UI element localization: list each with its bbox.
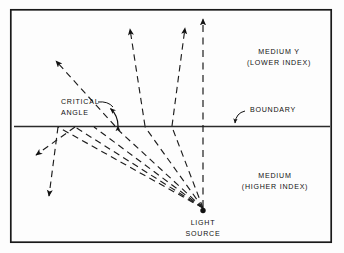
boundary-label: BOUNDARY — [250, 106, 296, 114]
light-source-label-line1: LIGHT — [191, 219, 216, 227]
critical-angle-leader — [98, 102, 113, 107]
reflected-ray-2 — [49, 127, 58, 196]
reflected-ray-1 — [36, 127, 75, 155]
medium-lower-label-line1: MEDIUM — [258, 172, 291, 180]
light-source-dot — [200, 208, 205, 213]
light-source-label-line2: SOURCE — [186, 230, 221, 238]
incident-ray-1 — [172, 127, 203, 208]
medium-upper-label-line2: (LOWER INDEX) — [247, 59, 311, 67]
incident-ray-4-critical — [94, 127, 203, 208]
medium-upper-label-line1: MEDIUM Y — [258, 48, 299, 56]
incident-ray-5 — [75, 127, 203, 208]
incident-ray-3 — [115, 127, 203, 208]
incident-ray-group — [58, 127, 203, 208]
boundary-leader — [235, 111, 245, 123]
critical-angle-arc — [111, 109, 119, 127]
medium-lower-label-line2: (HIGHER INDEX) — [242, 183, 308, 191]
incident-ray-6 — [58, 127, 203, 208]
optics-diagram: MEDIUM Y (LOWER INDEX) MEDIUM (HIGHER IN… — [0, 0, 344, 253]
diagram-canvas: MEDIUM Y (LOWER INDEX) MEDIUM (HIGHER IN… — [0, 0, 344, 253]
refracted-ray-steep — [172, 28, 185, 126]
refracted-ray-mid — [130, 29, 145, 126]
reflected-ray-group — [36, 127, 75, 196]
critical-angle-label-line2: ANGLE — [61, 109, 89, 117]
critical-angle-label-line1: CRITICAL — [61, 98, 99, 106]
incident-ray-2 — [145, 127, 203, 208]
